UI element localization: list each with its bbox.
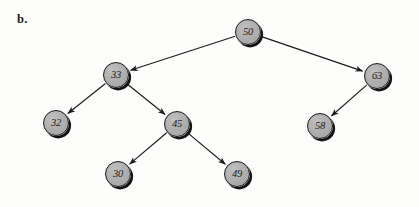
tree-node-value: 30 [113,168,123,179]
tree-node-50: 50 [235,19,261,45]
tree-node-30: 30 [105,161,131,187]
tree-node-49: 49 [224,161,250,187]
tree-node-33: 33 [103,62,129,88]
tree-node-value: 63 [372,70,382,81]
tree-node-value: 33 [111,69,121,80]
tree-node-32: 32 [43,110,69,136]
tree-edge-45-to-49 [187,133,225,165]
tree-edge-33-to-32 [68,83,106,113]
tree-node-value: 32 [51,117,61,128]
figure-container: b. 5033633245583049 [0,0,419,207]
tree-node-value: 45 [172,118,182,129]
tree-edges [68,36,367,164]
tree-node-value: 49 [232,168,242,179]
tree-node-45: 45 [164,111,190,137]
tree-edge-45-to-30 [130,133,167,164]
tree-edge-63-to-58 [331,85,366,116]
tree-edge-50-to-63 [261,36,363,71]
tree-node-value: 58 [315,120,325,131]
tree-node-value: 50 [243,26,253,37]
tree-edge-layer [0,0,419,207]
tree-node-58: 58 [307,113,333,139]
tree-node-63: 63 [364,63,390,89]
tree-edge-50-to-33 [130,36,235,70]
tree-edge-33-to-45 [127,83,166,114]
